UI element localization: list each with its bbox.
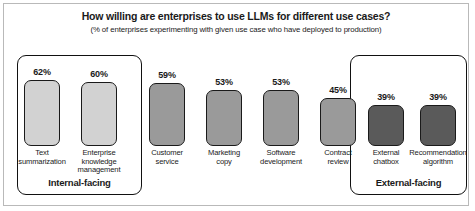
bar-category-label: Customerservice (136, 149, 198, 166)
bar-category-label-line: copy (193, 158, 255, 167)
bar[interactable] (81, 82, 117, 146)
bar-category-label: Softwaredevelopment (250, 149, 312, 166)
bar-category-label-line: algorithm (407, 158, 469, 167)
bar-value-label: 59% (138, 70, 196, 80)
bar[interactable] (320, 98, 356, 146)
bar[interactable] (420, 105, 456, 146)
bar[interactable] (24, 80, 60, 146)
group-label-external-facing: External-facing (350, 177, 467, 188)
bar[interactable] (263, 90, 299, 146)
bar-category-label-line: summarization (11, 158, 73, 167)
bar-category-label: Enterpriseknowledgemanagement (68, 149, 130, 175)
bar-category-label: Marketingcopy (193, 149, 255, 166)
bar-category-label: Recommendationalgorithm (407, 149, 469, 166)
bar-value-label: 62% (13, 67, 71, 77)
bar[interactable] (149, 83, 185, 146)
bar-category-label-line: management (68, 166, 130, 175)
bar[interactable] (368, 105, 404, 146)
bar-category-label: Textsummarization (11, 149, 73, 166)
bar-value-label: 60% (70, 69, 128, 79)
bar-chart-plot: Internal-facing External-facing 62%Texts… (4, 4, 470, 207)
chart-frame: How willing are enterprises to use LLMs … (3, 3, 469, 206)
bar-category-label-line: service (136, 158, 198, 167)
bar-value-label: 53% (252, 77, 310, 87)
bar-value-label: 39% (357, 92, 415, 102)
bar-category-label-line: development (250, 158, 312, 167)
bar-value-label: 39% (409, 92, 467, 102)
bar[interactable] (206, 90, 242, 146)
group-label-internal-facing: Internal-facing (17, 177, 142, 188)
bar-value-label: 53% (195, 77, 253, 87)
